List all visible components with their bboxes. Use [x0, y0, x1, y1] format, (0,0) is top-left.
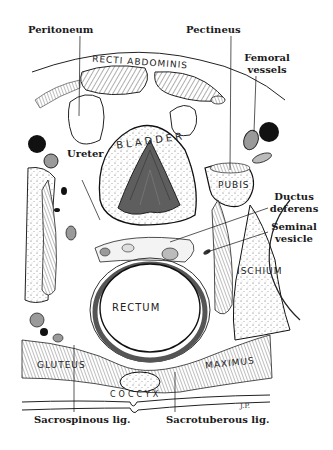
leader-ureter — [82, 180, 100, 220]
label-femoral-line1: Femoral — [243, 52, 291, 64]
label-sacrospinous-lig: Sacrospinous lig. — [34, 414, 131, 426]
artist-signature: J.P. — [239, 402, 250, 410]
label-ductus-line1: Ductus — [266, 191, 322, 203]
label-ureter: Ureter — [67, 148, 104, 160]
leader-femoral — [254, 76, 256, 132]
label-femoral-line2: vessels — [243, 64, 291, 76]
structure-pubis: PUBIS — [218, 180, 250, 190]
label-sacrotuberous-lig: Sacrotuberous lig. — [166, 414, 269, 426]
structure-coccyx: COCCYX — [110, 390, 161, 399]
coccyx — [120, 372, 160, 392]
label-pectineus: Pectineus — [186, 24, 241, 36]
label-femoral-vessels: Femoral vessels — [243, 52, 291, 76]
structure-ischium: ISCHIUM — [237, 266, 282, 276]
recti-left — [81, 66, 148, 95]
label-seminal-vesicle: Seminal vesicle — [266, 221, 322, 245]
label-ductus-line2: deferens — [266, 203, 322, 215]
label-seminal-line2: vesicle — [266, 233, 322, 245]
left-vessel-dark — [28, 135, 46, 153]
label-peritoneum: Peritoneum — [28, 24, 93, 36]
structure-gluteus: GLUTEUS — [37, 360, 86, 370]
leader-pectineus — [230, 36, 231, 170]
femoral-vessel-dark — [259, 122, 279, 142]
label-seminal-line1: Seminal — [266, 221, 322, 233]
anatomy-figure: J.P. Peritoneum Pectineus Femoral vessel… — [0, 0, 333, 450]
label-ductus-deferens: Ductus deferens — [266, 191, 322, 215]
structure-rectum: RECTUM — [112, 302, 160, 313]
